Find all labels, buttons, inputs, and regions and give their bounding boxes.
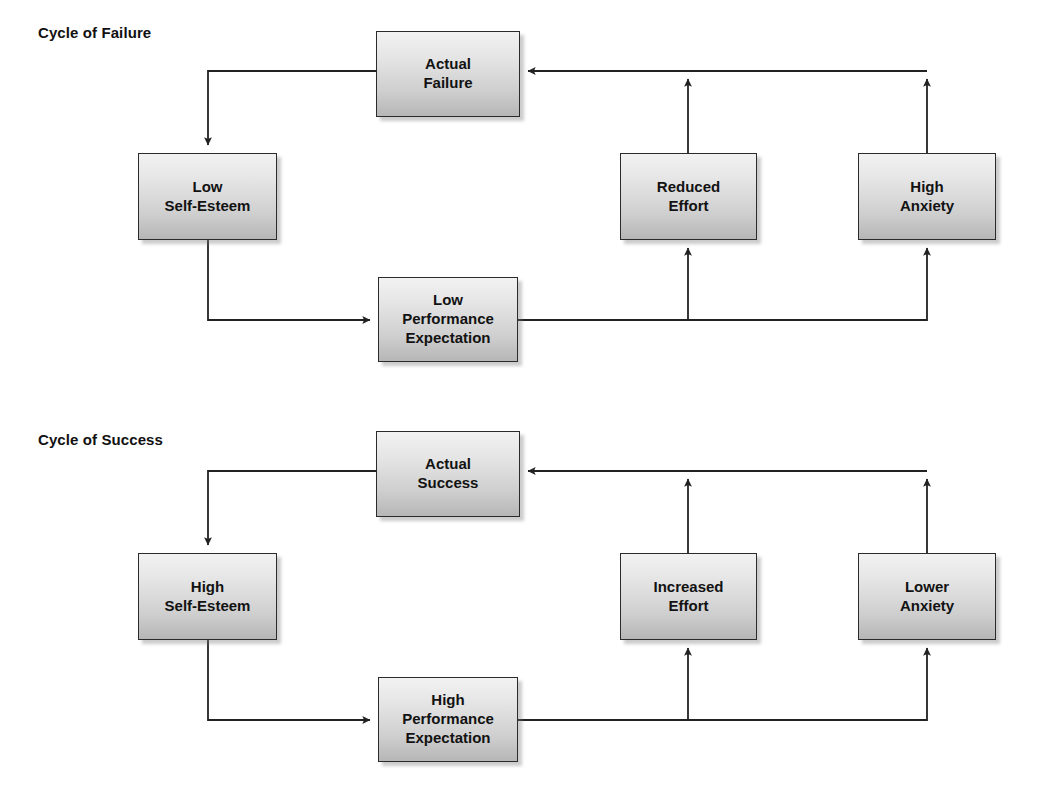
node-lower-anxiety-label: Lower Anxiety — [896, 578, 958, 616]
node-actual-failure[interactable]: Actual Failure — [376, 31, 520, 117]
node-reduced-effort[interactable]: Reduced Effort — [620, 153, 757, 240]
node-low-performance-expectation[interactable]: Low Performance Expectation — [378, 277, 518, 362]
connector-layer — [0, 0, 1043, 785]
node-high-anxiety-label: High Anxiety — [896, 178, 958, 216]
node-actual-success[interactable]: Actual Success — [376, 431, 520, 517]
edge-lower-anxiety-to-actual-success — [528, 471, 927, 553]
node-high-self-esteem[interactable]: High Self-Esteem — [138, 553, 277, 640]
node-high-anxiety[interactable]: High Anxiety — [858, 153, 996, 240]
node-reduced-effort-label: Reduced Effort — [653, 178, 724, 216]
node-actual-failure-label: Actual Failure — [419, 55, 476, 93]
node-increased-effort-label: Increased Effort — [649, 578, 727, 616]
node-high-performance-expectation-label: High Performance Expectation — [398, 691, 498, 747]
node-high-self-esteem-label: High Self-Esteem — [161, 578, 255, 616]
edge-low-self-esteem-to-low-performance-expectation — [208, 240, 370, 320]
edge-low-performance-expectation-to-high-anxiety — [518, 248, 927, 320]
node-low-self-esteem-label: Low Self-Esteem — [161, 178, 255, 216]
title-cycle-of-failure: Cycle of Failure — [38, 24, 151, 41]
edge-high-anxiety-to-actual-failure — [528, 71, 927, 153]
node-lower-anxiety[interactable]: Lower Anxiety — [858, 553, 996, 640]
edge-actual-failure-to-low-self-esteem — [208, 71, 376, 145]
diagram-canvas: Cycle of Failure Cycle of Success Actual… — [0, 0, 1043, 785]
node-actual-success-label: Actual Success — [414, 455, 483, 493]
node-increased-effort[interactable]: Increased Effort — [620, 553, 757, 640]
node-high-performance-expectation[interactable]: High Performance Expectation — [378, 677, 518, 762]
edge-high-performance-expectation-to-lower-anxiety — [518, 648, 927, 720]
edge-high-self-esteem-to-high-performance-expectation — [208, 640, 370, 720]
title-cycle-of-success: Cycle of Success — [38, 431, 163, 448]
edge-high-performance-expectation-to-increased-effort — [518, 648, 688, 720]
edge-low-performance-expectation-to-reduced-effort — [518, 248, 688, 320]
node-low-performance-expectation-label: Low Performance Expectation — [398, 291, 498, 347]
edge-actual-success-to-high-self-esteem — [208, 471, 376, 545]
node-low-self-esteem[interactable]: Low Self-Esteem — [138, 153, 277, 240]
